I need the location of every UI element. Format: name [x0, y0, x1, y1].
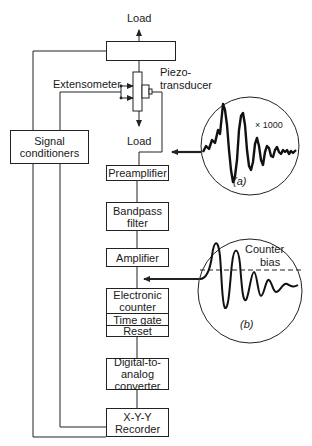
bottom-load-label: Load: [127, 135, 151, 147]
preamplifier-block: Preamplifier: [106, 165, 169, 181]
counter-bias-line2: bias: [260, 256, 280, 268]
signal-conditioners-line1: Signal: [34, 135, 65, 147]
signal-conditioners-line2: conditioners: [20, 147, 79, 159]
recorder-label-line1: X-Y-Y: [123, 411, 151, 423]
inset-a-noisy-signal: [201, 97, 299, 195]
inset-b-caption: (b): [240, 318, 253, 330]
dac-block: Digital-to- analog converter: [106, 358, 169, 390]
inset-a-caption: (a): [233, 175, 246, 187]
bandpass-label-line1: Bandpass: [113, 205, 162, 217]
bandpass-label-line2: filter: [127, 217, 148, 229]
reset-row: Reset: [107, 325, 168, 336]
counter-label-line1: Electronic: [113, 289, 161, 301]
electronic-counter-block: Electronic counter Time gate Reset: [106, 288, 169, 337]
load-frame-box: [106, 41, 176, 61]
piezo-label-line2: transducer: [160, 79, 212, 91]
extensometer-label: Extensometer: [53, 78, 121, 90]
counter-bias-line1: Counter: [245, 243, 284, 255]
dac-label-line2: analog: [121, 368, 154, 380]
amplifier-block: Amplifier: [106, 248, 169, 267]
signal-conditioners-block: Signal conditioners: [10, 130, 89, 164]
dac-label-line3: converter: [115, 380, 161, 392]
counter-label-line2: counter: [119, 301, 156, 313]
counter-row: Electronic counter: [107, 289, 168, 313]
dac-label-line1: Digital-to-: [114, 356, 161, 368]
bandpass-filter-block: Bandpass filter: [106, 202, 169, 231]
piezo-transducer-body: [133, 72, 142, 111]
recorder-block: X-Y-Y Recorder: [106, 408, 169, 437]
recorder-label-line2: Recorder: [115, 423, 160, 435]
top-load-label: Load: [127, 12, 151, 24]
amplifier-label: Amplifier: [116, 252, 159, 264]
time-gate-row: Time gate: [107, 313, 168, 325]
preamplifier-label: Preamplifier: [108, 167, 167, 179]
magnification-label: × 1000: [255, 119, 283, 131]
piezo-label-line1: Piezo-: [160, 66, 191, 78]
